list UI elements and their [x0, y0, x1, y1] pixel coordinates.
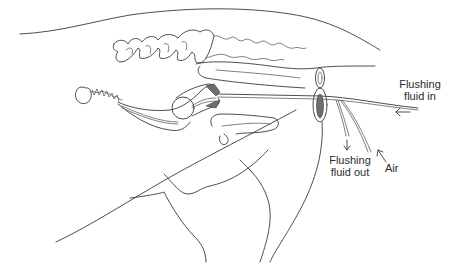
dorsal-outline: [20, 9, 380, 50]
fluid-out-label: Flushing fluid out: [326, 154, 374, 178]
ethmoid-wave: [214, 36, 306, 49]
pouch-shaded-line: [122, 106, 178, 124]
ethmoid-wave-lower: [206, 54, 284, 60]
fluid-in-label-line1: Flushing: [392, 78, 448, 90]
fluid-out-label-line1: Flushing: [326, 154, 374, 166]
upper-passage-inner: [216, 70, 300, 78]
turbinate-structure: [113, 30, 214, 63]
bulb: [75, 87, 91, 104]
air-label: Air: [385, 162, 398, 174]
fluid-out-label-line2: fluid out: [326, 166, 374, 178]
pouch-lower: [118, 104, 190, 131]
air-tube: [340, 100, 371, 152]
grip-upper: [206, 84, 220, 96]
fluid-in-label: Flushing fluid in: [392, 78, 448, 102]
coiled-wire-zigzag: [92, 89, 119, 101]
pouch-outline: [118, 85, 214, 110]
fluid-in-label-line2: fluid in: [392, 90, 448, 102]
lower-ring-shade: [317, 94, 324, 118]
anatomical-diagram: [0, 0, 460, 276]
air-arrow: [377, 150, 386, 162]
upper-passage: [196, 62, 375, 69]
hyoid-small: [219, 134, 228, 145]
fluid-out-arrow: [344, 140, 350, 150]
balloon: [172, 97, 194, 119]
upper-ring: [316, 68, 325, 88]
jaw-outline: [56, 110, 296, 242]
jaw-mid: [130, 192, 206, 262]
upper-ring-inner: [318, 72, 322, 84]
tongue-line: [222, 123, 270, 126]
pharynx-wall: [270, 122, 322, 262]
pharynx-wall-left: [240, 160, 270, 262]
fluid-out-tube: [336, 100, 349, 136]
